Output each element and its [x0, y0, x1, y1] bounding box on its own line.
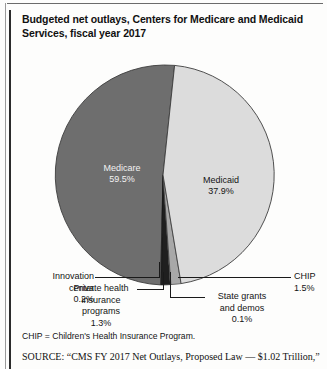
slice-label-medicaid-name: Medicaid [183, 175, 259, 186]
slice-label-medicare-value: 59.5% [82, 174, 162, 185]
slice-label-medicaid: Medicaid 37.9% [183, 175, 259, 197]
callout-chip: CHIP 1.5% [294, 271, 326, 294]
callout-state-grants-line1: State grants [206, 291, 278, 303]
slice-label-medicare: Medicare 59.5% [82, 163, 162, 185]
callout-innovation-center-line1: Innovation [20, 271, 94, 283]
callout-state-grants: State grants and demos 0.1% [206, 291, 278, 326]
pie-chart: Medicare 59.5% Medicaid 37.9% [0, 0, 327, 300]
callout-private-health-insurance: Private health insurance programs 1.3% [66, 283, 136, 329]
figure-source-prefix: SOURCE: [22, 351, 64, 362]
figure-footnote: CHIP = Children's Health Insurance Progr… [22, 331, 312, 342]
callout-state-grants-line2: and demos [206, 303, 278, 315]
figure-panel: Budgeted net outlays, Centers for Medica… [0, 0, 327, 369]
figure-source-text: “CMS FY 2017 Net Outlays, Proposed Law —… [67, 351, 320, 362]
callout-state-grants-value: 0.1% [206, 314, 278, 326]
callout-private-health-value: 1.3% [66, 318, 136, 330]
callout-private-health-line3: programs [66, 306, 136, 318]
callout-chip-name: CHIP [294, 271, 326, 283]
callout-private-health-line1: Private health [66, 283, 136, 295]
callout-private-health-line2: insurance [66, 295, 136, 307]
pie-chart-svg [0, 0, 327, 300]
slice-label-medicare-name: Medicare [82, 163, 162, 174]
figure-source: SOURCE: “CMS FY 2017 Net Outlays, Propos… [22, 351, 322, 363]
callout-chip-value: 1.5% [294, 283, 326, 295]
slice-label-medicaid-value: 37.9% [183, 186, 259, 197]
